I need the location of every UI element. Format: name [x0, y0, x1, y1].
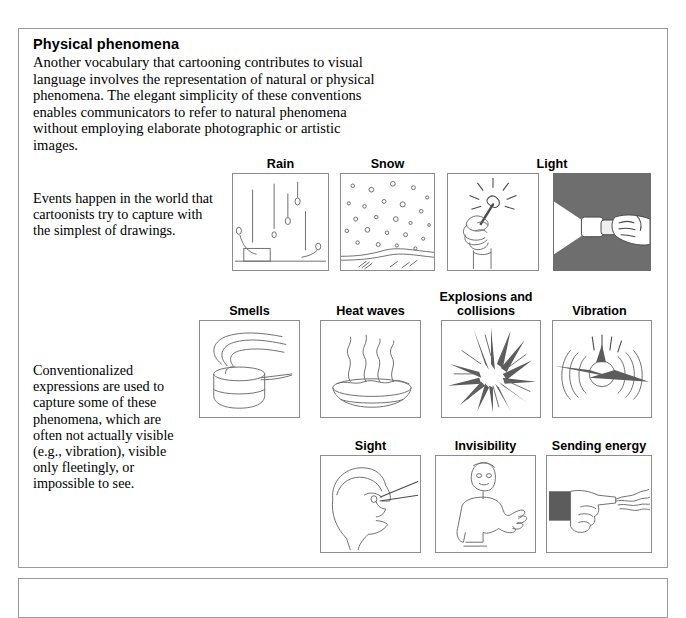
- section-heading: Physical phenomena: [33, 36, 179, 52]
- caption-sight: Sight: [320, 440, 421, 454]
- snow-panel: [340, 173, 435, 271]
- sight-illustration: [321, 456, 420, 552]
- rain-panel: [232, 173, 329, 271]
- explosions-panel: [441, 320, 541, 418]
- caption-heat-waves: Heat waves: [320, 305, 421, 319]
- heat-waves-panel: [320, 320, 421, 418]
- side-note-conventions: Conventionalized expressions are used to…: [33, 362, 183, 492]
- snow-illustration: [341, 174, 434, 270]
- caption-rain: Rain: [232, 158, 329, 172]
- invisibility-panel: [435, 455, 536, 553]
- lit-match-illustration: [448, 174, 538, 270]
- caption-vibration: Vibration: [547, 305, 652, 319]
- flashlight-beam-illustration: [554, 174, 650, 270]
- sight-panel: [320, 455, 421, 553]
- caption-smells: Smells: [199, 305, 300, 319]
- heat-waves-illustration: [321, 321, 420, 417]
- match-panel: [447, 173, 539, 271]
- vibration-panel: [552, 320, 652, 418]
- sending-energy-illustration: [547, 456, 651, 552]
- caption-explosions: Explosions and collisions: [431, 291, 541, 318]
- caption-sending-energy: Sending energy: [546, 440, 652, 454]
- flashlight-panel: [553, 173, 651, 271]
- sending-energy-panel: [546, 455, 652, 553]
- smells-panel: [199, 320, 300, 418]
- caption-snow: Snow: [340, 158, 435, 172]
- rain-illustration: [233, 174, 328, 270]
- next-section-frame: [18, 578, 668, 618]
- explosion-starburst-illustration: [442, 321, 540, 417]
- invisibility-illustration: [436, 456, 535, 552]
- side-note-events: Events happen in the world that cartooni…: [33, 190, 223, 239]
- caption-invisibility: Invisibility: [435, 440, 536, 454]
- vibration-illustration: [553, 321, 651, 417]
- caption-light: Light: [447, 158, 657, 172]
- smells-illustration: [200, 321, 299, 417]
- intro-paragraph: Another vocabulary that cartooning contr…: [33, 54, 378, 154]
